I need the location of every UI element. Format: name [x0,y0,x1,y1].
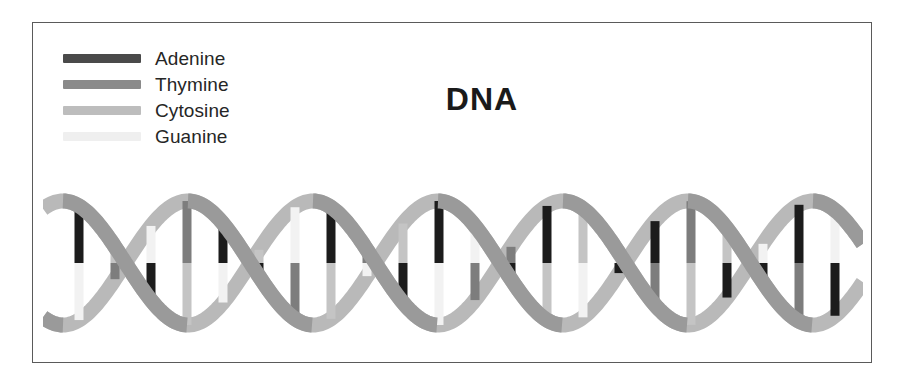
base-half-bottom [723,263,732,298]
base-half-bottom [435,263,444,325]
page-title: DNA [33,81,871,118]
backbone-segment [688,201,812,325]
base-half-bottom [471,263,480,300]
legend-label-adenine: Adenine [155,49,225,68]
legend-item-guanine: Guanine [63,123,273,149]
base-half-bottom [579,263,588,317]
legend-item-adenine: Adenine [63,45,273,71]
backbone-segment [43,317,63,325]
base-half-bottom [831,263,840,316]
base-half-top [759,244,768,263]
dna-double-helix [43,173,863,353]
base-half-top [651,221,660,263]
base-half-bottom [687,263,696,325]
helix-canvas [43,173,863,353]
base-half-top [183,201,192,263]
legend-label-guanine: Guanine [155,127,228,146]
base-half-top [399,223,408,263]
base-half-top [435,201,444,263]
base-half-bottom [219,263,228,303]
base-half-bottom [327,263,336,319]
base-half-top [795,205,804,263]
legend-swatch-adenine [63,54,141,63]
base-half-bottom [75,263,84,320]
base-half-top [291,207,300,263]
legend-swatch-guanine [63,132,141,141]
base-half-top [147,226,156,263]
base-half-top [543,206,552,263]
base-half-bottom [183,263,192,325]
dna-figure-frame: Adenine Thymine Cytosine Guanine DNA [32,22,872,363]
base-half-top [687,201,696,263]
